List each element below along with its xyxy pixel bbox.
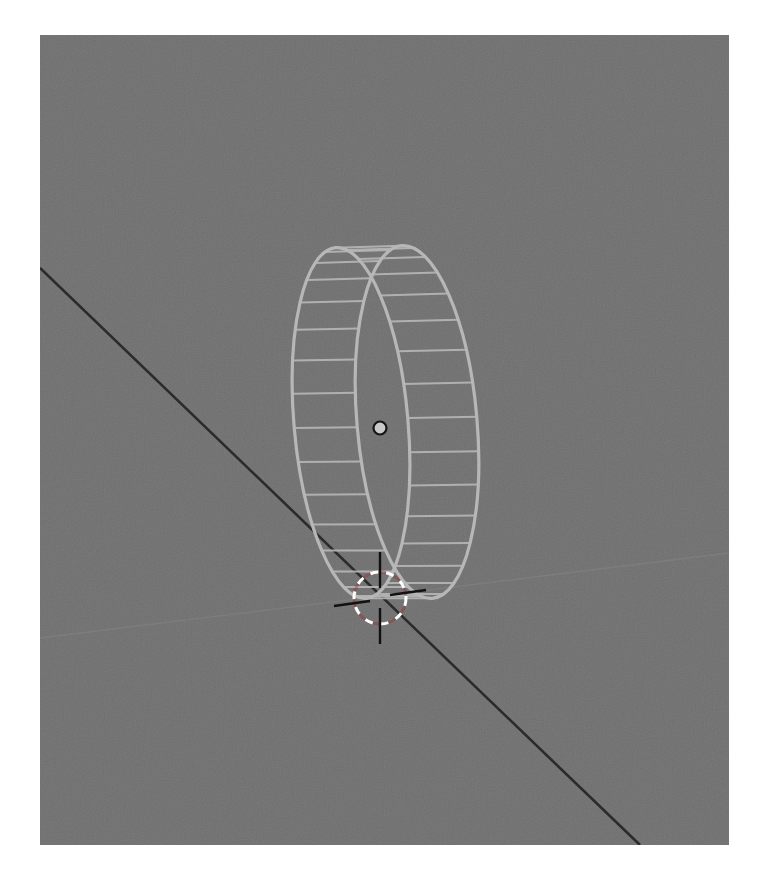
viewport-background	[40, 35, 729, 845]
ring-edge	[293, 359, 356, 360]
ring-edge	[292, 393, 355, 394]
ring-edge	[410, 451, 479, 452]
ring-edge	[402, 543, 470, 544]
ring-edge	[298, 462, 361, 463]
3d-viewport[interactable]	[40, 35, 729, 845]
ring-edge	[404, 383, 473, 384]
viewport-canvas[interactable]	[40, 35, 729, 845]
object-origin-point[interactable]	[374, 422, 387, 435]
ring-edge	[408, 417, 477, 418]
ring-edge	[294, 427, 357, 428]
origin-dot-icon[interactable]	[374, 422, 387, 435]
ring-edge	[409, 485, 478, 486]
ring-edge	[295, 328, 358, 329]
ring-edge	[407, 516, 476, 517]
